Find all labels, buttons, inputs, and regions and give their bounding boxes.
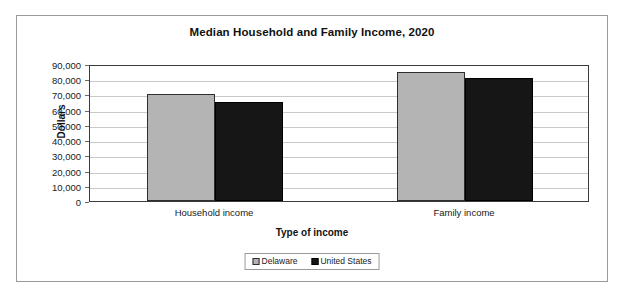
y-tick-label: 50,000	[27, 120, 81, 131]
y-tick-mark	[85, 111, 89, 112]
legend-swatch-icon	[311, 258, 318, 265]
y-tick-label: 30,000	[27, 151, 81, 162]
bar-delaware-family-income	[397, 72, 465, 201]
x-category-label: Household income	[175, 207, 254, 218]
y-tick-mark	[85, 141, 89, 142]
y-tick-label: 80,000	[27, 75, 81, 86]
x-category-label: Family income	[433, 207, 494, 218]
y-tick-label: 60,000	[27, 105, 81, 116]
chart-title: Median Household and Family Income, 2020	[17, 26, 607, 38]
bar-united-states-household-income	[215, 102, 283, 201]
chart-legend: DelawareUnited States	[245, 253, 380, 270]
legend-label: United States	[320, 256, 371, 266]
plot-wrapper: 010,00020,00030,00040,00050,00060,00070,…	[89, 65, 589, 202]
y-tick-mark	[85, 187, 89, 188]
y-tick-label: 0	[27, 197, 81, 208]
legend-label: Delaware	[262, 256, 298, 266]
y-tick-mark	[85, 126, 89, 127]
plot-area	[89, 65, 589, 202]
bar-united-states-family-income	[465, 78, 533, 201]
legend-item-delaware: Delaware	[253, 256, 298, 266]
legend-item-united-states: United States	[311, 256, 371, 266]
y-tick-mark	[85, 65, 89, 66]
legend-swatch-icon	[253, 258, 260, 265]
y-tick-mark	[85, 80, 89, 81]
y-tick-mark	[85, 156, 89, 157]
y-tick-mark	[85, 172, 89, 173]
y-tick-label: 20,000	[27, 166, 81, 177]
x-axis-label: Type of income	[17, 227, 607, 238]
y-tick-label: 70,000	[27, 90, 81, 101]
y-tick-label: 10,000	[27, 181, 81, 192]
chart-figure: Median Household and Family Income, 2020…	[16, 15, 608, 282]
bar-delaware-household-income	[147, 94, 215, 201]
y-tick-label: 90,000	[27, 60, 81, 71]
y-tick-mark	[85, 202, 89, 203]
y-tick-mark	[85, 95, 89, 96]
y-tick-label: 40,000	[27, 136, 81, 147]
